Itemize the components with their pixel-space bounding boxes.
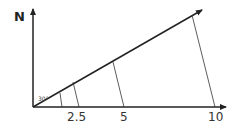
angle-arc <box>60 93 62 107</box>
north-label: N <box>14 10 25 23</box>
angle-label: 30° <box>38 96 49 102</box>
tick-label-10: 10 <box>208 111 223 123</box>
perpendicular-2-5 <box>73 82 79 107</box>
perpendicular-5 <box>113 62 124 107</box>
tick-label-2-5: 2.5 <box>67 111 86 123</box>
diagonal-vector <box>33 10 202 107</box>
perpendicular-10 <box>192 15 215 107</box>
tick-label-5: 5 <box>120 111 128 123</box>
